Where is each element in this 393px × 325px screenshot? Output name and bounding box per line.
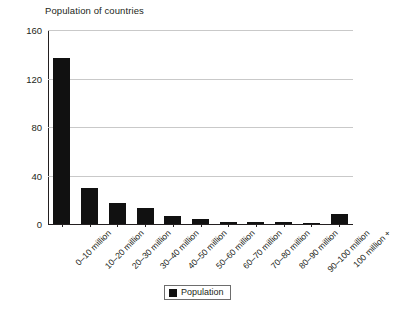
x-axis-tick-mark <box>284 224 285 227</box>
x-axis-tick-mark <box>311 224 312 227</box>
bar <box>164 216 181 224</box>
x-axis-tick-mark <box>90 224 91 227</box>
y-axis-tick-label: 160 <box>26 25 48 36</box>
x-axis-tick-mark <box>62 224 63 227</box>
bar <box>53 58 70 224</box>
bar-series-population <box>48 30 353 224</box>
y-axis-tick-label: 0 <box>37 219 48 230</box>
x-axis-tick-mark <box>173 224 174 227</box>
bar <box>81 188 98 224</box>
x-axis-tick-mark <box>201 224 202 227</box>
x-axis-tick-mark <box>339 224 340 227</box>
chart-legend: Population <box>164 285 231 300</box>
y-axis-tick-label: 80 <box>31 122 48 133</box>
bar <box>331 214 348 224</box>
legend-entry-label: Population <box>181 288 224 297</box>
x-axis-tick-labels: 0–10 million10–20 million20–30 million30… <box>48 228 353 288</box>
x-axis-tick-mark <box>117 224 118 227</box>
y-axis-tick-label: 40 <box>31 170 48 181</box>
bar <box>137 208 154 224</box>
bar <box>109 203 126 224</box>
y-axis-tick-label: 120 <box>26 73 48 84</box>
legend-swatch-icon <box>169 289 177 297</box>
x-axis-tick-mark <box>228 224 229 227</box>
plot-area: 04080120160 <box>48 30 353 224</box>
x-axis-tick-mark <box>256 224 257 227</box>
chart-title: Population of countries <box>45 5 144 16</box>
x-axis-tick-mark <box>145 224 146 227</box>
